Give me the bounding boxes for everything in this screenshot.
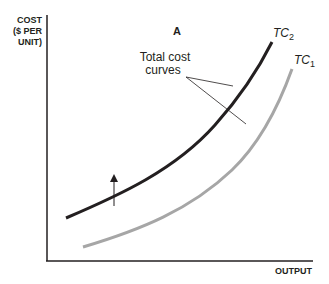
y-axis-label-line3: UNIT) xyxy=(18,37,42,47)
annotation-line1: Total cost xyxy=(140,50,191,64)
y-axis-label-line2: ($ PER xyxy=(13,26,43,36)
tc2-label: TC2 xyxy=(273,26,294,42)
tc1-curve xyxy=(83,69,292,247)
leader-line-tc2 xyxy=(186,77,233,86)
annotation-line2: curves xyxy=(145,63,180,77)
y-axis-label-line1: COST xyxy=(17,15,43,25)
tc1-label: TC1 xyxy=(294,53,315,69)
chart-svg: COST ($ PER UNIT) OUTPUT A Total cost cu… xyxy=(0,0,329,284)
x-axis-label: OUTPUT xyxy=(275,266,313,276)
panel-label: A xyxy=(173,25,181,37)
